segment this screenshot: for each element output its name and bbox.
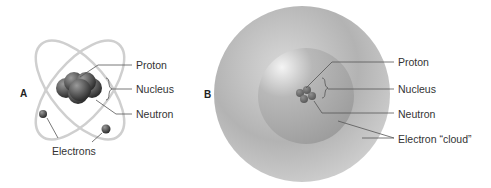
label-neutron-a: Neutron [136, 109, 173, 120]
panel-b-letter: B [204, 90, 211, 100]
electron-1 [39, 110, 47, 118]
panel-a-letter: A [20, 89, 27, 99]
label-electron-cloud-b: Electron “cloud” [398, 134, 472, 145]
label-neutron-b: Neutron [398, 109, 435, 120]
label-nucleus-b: Nucleus [398, 84, 436, 95]
electron-2 [102, 125, 111, 134]
label-electrons-a: Electrons [52, 146, 96, 157]
label-proton-a: Proton [136, 60, 167, 71]
label-proton-b: Proton [398, 57, 429, 68]
nucleus-a [56, 72, 102, 104]
label-nucleus-a: Nucleus [136, 84, 174, 95]
